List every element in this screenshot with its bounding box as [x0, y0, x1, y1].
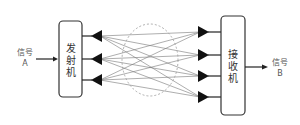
transmitter-antennas — [82, 30, 102, 86]
output-arrow — [245, 65, 268, 70]
transmitter-label-char1: 发 — [66, 42, 76, 54]
tx-antenna-2-icon — [82, 53, 102, 65]
rx-antenna-3-icon — [198, 70, 221, 82]
output-signal-label-line2: B — [277, 69, 283, 78]
tx-antenna-3-icon — [82, 74, 102, 86]
transmitter-label-char3: 机 — [66, 66, 76, 78]
propagation-paths — [100, 32, 200, 97]
transmitter-box: 发 射 机 — [59, 21, 82, 97]
output-signal-label-line1: 信号 — [272, 57, 288, 67]
input-signal-label-line2: A — [22, 59, 28, 68]
tx-antenna-1-icon — [82, 30, 102, 42]
receiver-box: 接 收 机 — [221, 16, 245, 115]
transmitter-label-char2: 射 — [66, 55, 76, 66]
input-arrow — [36, 57, 58, 62]
receiver-antennas — [198, 26, 221, 103]
rx-antenna-2-icon — [198, 49, 221, 61]
receiver-label-char3: 机 — [228, 72, 238, 84]
receiver-label-char1: 接 — [228, 48, 238, 60]
rx-antenna-1-icon — [198, 26, 221, 38]
rx-antenna-4-icon — [198, 91, 221, 103]
input-signal-label-line1: 信号 — [17, 47, 33, 57]
mimo-diagram: 信号 A 发 射 机 — [0, 0, 300, 125]
receiver-label-char2: 收 — [228, 60, 238, 72]
